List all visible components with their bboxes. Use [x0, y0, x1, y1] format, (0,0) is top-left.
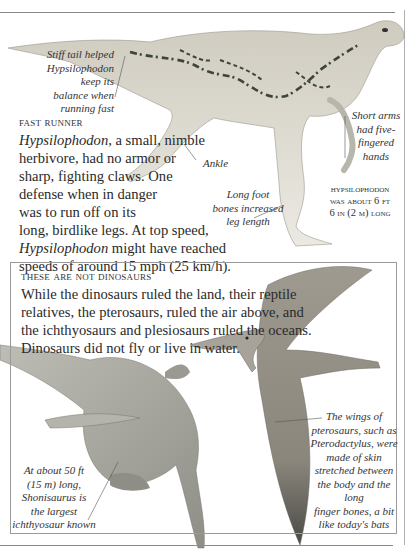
bottom-rule	[0, 545, 393, 546]
leader-lines	[0, 0, 415, 553]
leader-line-ichthyosaur	[88, 462, 118, 520]
leader-line-foot	[254, 206, 281, 218]
leader-line-tail	[115, 56, 125, 97]
leader-line-pterosaur	[275, 418, 322, 422]
leader-line-ankle	[184, 144, 196, 160]
